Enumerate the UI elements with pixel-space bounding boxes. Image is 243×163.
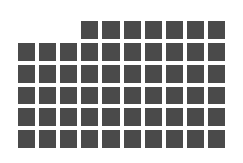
grid-cell	[100, 106, 121, 128]
grid-cell	[58, 85, 79, 107]
grid-cell	[37, 128, 58, 150]
grid-cell	[143, 128, 164, 150]
grid-cell	[143, 85, 164, 107]
grid-cell	[58, 63, 79, 85]
grid-cell	[79, 106, 100, 128]
grid-cell	[79, 41, 100, 63]
grid-cell	[122, 63, 143, 85]
grid-cell-empty	[58, 19, 79, 41]
grid-cell-empty	[16, 19, 37, 41]
grid-cell	[185, 85, 206, 107]
grid-cell	[185, 63, 206, 85]
grid-cell	[122, 85, 143, 107]
grid-cell	[100, 128, 121, 150]
grid-cell	[206, 85, 227, 107]
grid-cell	[164, 19, 185, 41]
grid-cell	[100, 85, 121, 107]
grid-cell	[16, 85, 37, 107]
grid-cell	[164, 128, 185, 150]
grid-cell	[122, 19, 143, 41]
figure-root	[0, 0, 243, 163]
grid-cell	[206, 128, 227, 150]
grid-cell	[79, 128, 100, 150]
grid-cell	[206, 19, 227, 41]
grid-cell	[79, 19, 100, 41]
grid-cell	[185, 128, 206, 150]
grid-cell	[143, 106, 164, 128]
grid-cell	[37, 63, 58, 85]
grid-cell	[185, 41, 206, 63]
grid-cell	[164, 63, 185, 85]
grid-cell	[100, 63, 121, 85]
grid-cell	[37, 85, 58, 107]
grid-cell	[164, 106, 185, 128]
grid-cell	[185, 106, 206, 128]
grid-cell	[122, 128, 143, 150]
grid-cell	[16, 106, 37, 128]
grid-cell	[58, 41, 79, 63]
grid-cell	[16, 63, 37, 85]
grid-cell	[100, 19, 121, 41]
grid-cell	[143, 63, 164, 85]
grid-cell	[16, 128, 37, 150]
grid-cell	[164, 41, 185, 63]
grid-cell	[100, 41, 121, 63]
grid-cell	[58, 128, 79, 150]
grid-cell	[206, 41, 227, 63]
grid-cell	[37, 41, 58, 63]
grid-cell	[164, 85, 185, 107]
grid-block	[16, 19, 227, 150]
grid-cell	[37, 106, 58, 128]
grid-cell	[122, 41, 143, 63]
grid-cell	[16, 41, 37, 63]
grid-cell	[143, 41, 164, 63]
grid-cell	[122, 106, 143, 128]
grid-cell	[143, 19, 164, 41]
grid-cell	[79, 63, 100, 85]
grid-cell	[185, 19, 206, 41]
grid-cell	[58, 106, 79, 128]
grid-cell-empty	[37, 19, 58, 41]
grid-cell	[206, 106, 227, 128]
grid-cell	[206, 63, 227, 85]
grid-cell	[79, 85, 100, 107]
